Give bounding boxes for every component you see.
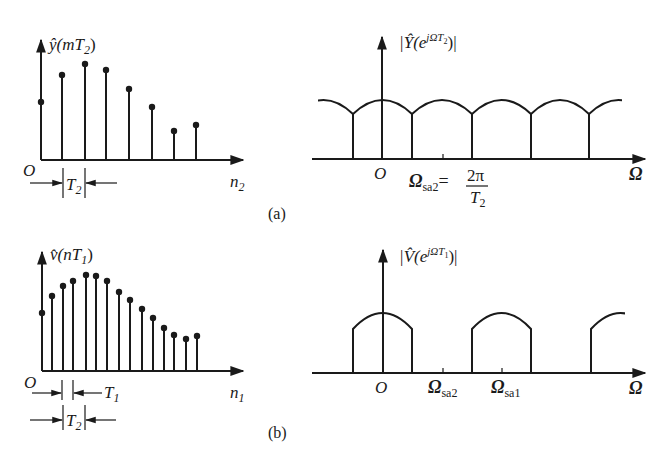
stem-series (39, 272, 200, 371)
period-label: T2 (66, 175, 81, 197)
x-axis-label: Ω (629, 378, 643, 398)
stem-dot (59, 72, 65, 78)
x-axis-label: n2 (230, 172, 245, 194)
svg-text:2π: 2π (467, 166, 485, 185)
stem-dot (194, 333, 200, 339)
panel-a-time-plot: ŷ(mT2) O n2 T2 (23, 35, 245, 198)
stem-dot (127, 297, 133, 303)
stem-dot (183, 336, 189, 342)
svg-text:Ωsa2=: Ωsa2= (409, 171, 449, 194)
period-t2-dimension: T2 (30, 168, 117, 198)
sampling-frequency-label: Ωsa2= 2π T2 (409, 166, 488, 210)
y-axis-label: |V̂(ejΩT1)| (399, 245, 457, 266)
stem-dot (70, 278, 76, 284)
aliased-spectrum (294, 100, 648, 159)
period-t2-dimension: T2 (30, 405, 116, 433)
spectrum-curve (294, 100, 648, 114)
panel-a-spectrum-plot: |Ŷ(ejΩT2)| O Ω Ωsa2= 2π T2 (294, 31, 648, 210)
panel-b-time-plot: v̂(nT1) O n1 T1 T2 (24, 245, 245, 433)
marker-label-sa1: Ωsa1 (491, 377, 520, 400)
stem-dot (126, 86, 132, 92)
y-axis-label: ŷ(mT2) (47, 35, 96, 57)
spectrum-lobe (591, 313, 650, 373)
period-t1-dimension: T1 (32, 380, 119, 405)
stem-dot (49, 293, 55, 299)
stem-dot (38, 99, 44, 105)
y-axis-label: v̂(nT1) (50, 245, 93, 267)
panel-b-spectrum-plot: |V̂(ejΩT1)| O Ω Ωsa2 Ωsa1 (312, 245, 650, 400)
origin-label: O (24, 373, 36, 392)
diagram-canvas: ŷ(mT2) O n2 T2 |Ŷ(ejΩT2)| O Ω Ωsa2= 2π T… (0, 0, 664, 458)
svg-text:T2: T2 (470, 188, 485, 210)
caption-b: (b) (268, 424, 287, 442)
stem-dot (103, 67, 109, 73)
stem-dot (60, 283, 66, 289)
origin-label: O (374, 164, 386, 183)
stem-dot (171, 332, 177, 338)
origin-label: O (375, 378, 387, 397)
stem-dot (161, 325, 167, 331)
stem-dot (150, 315, 156, 321)
stem-dot (104, 278, 110, 284)
spectrum-lobe (472, 313, 531, 373)
stem-dot (193, 122, 199, 128)
x-axis-label: Ω (629, 164, 643, 184)
stem-dot (149, 104, 155, 110)
caption-a: (a) (268, 205, 286, 223)
marker-label-sa2: Ωsa2 (428, 377, 457, 400)
stem-dot (93, 273, 99, 279)
stem-dot (39, 310, 45, 316)
stem-dot (82, 61, 88, 67)
period-label-t1: T1 (104, 383, 119, 405)
stem-dot (83, 272, 89, 278)
y-axis-label: |Ŷ(ejΩT2)| (399, 31, 457, 52)
non-aliased-spectrum (353, 313, 650, 373)
stem-series (38, 61, 199, 160)
period-label-t2: T2 (66, 411, 81, 433)
stem-dot (171, 128, 177, 134)
x-axis-label: n1 (230, 383, 245, 405)
stem-dot (116, 289, 122, 295)
origin-label: O (23, 161, 35, 180)
stem-dot (139, 306, 145, 312)
